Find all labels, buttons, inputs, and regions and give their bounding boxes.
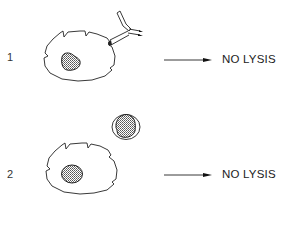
effector-cell-2	[112, 114, 140, 139]
target-cell-1	[44, 31, 115, 81]
arrow-1	[164, 58, 212, 62]
lysis-diagram: 1 2 NO LYSIS NO LYSIS	[0, 0, 291, 228]
row-label-1: 1	[7, 51, 13, 63]
arrow-2	[164, 173, 212, 177]
nucleus-2	[62, 165, 83, 183]
antibody-icon	[108, 11, 143, 46]
result-label-1: NO LYSIS	[222, 53, 276, 65]
result-label-2: NO LYSIS	[222, 168, 276, 180]
row-label-2: 2	[7, 168, 13, 180]
target-cell-2	[46, 143, 117, 194]
diagram-graphics	[0, 0, 291, 228]
